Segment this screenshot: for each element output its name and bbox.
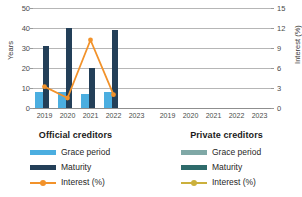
legend-label-interest: Interest (%) xyxy=(212,178,256,187)
maturity-swatch-icon xyxy=(181,165,207,170)
x-tick-2019: 2019 xyxy=(156,110,179,122)
tickmark-right xyxy=(271,68,274,69)
x-tick-2021: 2021 xyxy=(79,110,102,122)
interest-line-private xyxy=(156,8,271,108)
panel-official-creditors xyxy=(33,8,148,108)
y-tick-right-9: 9 xyxy=(277,45,293,53)
legend-label-maturity: Maturity xyxy=(212,163,242,172)
tickmark-right xyxy=(271,8,274,9)
legend-title-private: Private creditors xyxy=(151,130,302,140)
legend-item-maturity[interactable]: Maturity xyxy=(151,160,302,175)
legend-item-grace-period[interactable]: Grace period xyxy=(0,145,151,160)
panel-private-creditors xyxy=(156,8,271,108)
chart-root: Years Interest (%) 50 40 30 20 10 0 15 1… xyxy=(0,0,302,197)
tickmark-right xyxy=(271,48,274,49)
interest-point-2021[interactable] xyxy=(88,38,93,43)
legend-label-grace-period: Grace period xyxy=(212,148,261,157)
x-tick-2021: 2021 xyxy=(202,110,225,122)
y-tick-left-0: 0 xyxy=(14,105,30,113)
legend-item-grace-period[interactable]: Grace period xyxy=(151,145,302,160)
tickmark-right xyxy=(271,88,274,89)
interest-line-swatch-icon xyxy=(181,179,207,186)
x-axis-official: 2019 2020 2021 2022 2023 xyxy=(33,110,148,122)
y-tick-left-40: 40 xyxy=(14,25,30,33)
x-tick-2022: 2022 xyxy=(225,110,248,122)
x-tick-2020: 2020 xyxy=(56,110,79,122)
grace-period-swatch-icon xyxy=(30,150,56,155)
legend-item-maturity[interactable]: Maturity xyxy=(0,160,151,175)
legend-label-interest: Interest (%) xyxy=(61,178,105,187)
legend-item-interest[interactable]: Interest (%) xyxy=(0,175,151,190)
x-tick-2022: 2022 xyxy=(102,110,125,122)
legend-label-grace-period: Grace period xyxy=(61,148,110,157)
legend-private-creditors: Private creditors Grace period Maturity … xyxy=(151,130,302,190)
gridline-baseline xyxy=(33,108,271,109)
x-tick-2019: 2019 xyxy=(33,110,56,122)
y-tick-right-3: 3 xyxy=(277,85,293,93)
y-tick-right-15: 15 xyxy=(277,5,293,13)
x-axis-private: 2019 2020 2021 2022 2023 xyxy=(156,110,271,122)
grace-period-swatch-icon xyxy=(181,150,207,155)
interest-point-2020[interactable] xyxy=(65,96,70,101)
interest-polyline xyxy=(45,40,114,98)
legend-title-official: Official creditors xyxy=(0,130,151,140)
y-tick-left-50: 50 xyxy=(14,5,30,13)
interest-line-official xyxy=(33,8,148,108)
y-tick-left-20: 20 xyxy=(14,65,30,73)
y-tick-left-10: 10 xyxy=(14,85,30,93)
x-tick-2023: 2023 xyxy=(248,110,271,122)
legend-label-maturity: Maturity xyxy=(61,163,91,172)
legend-item-interest[interactable]: Interest (%) xyxy=(151,175,302,190)
y-tick-left-30: 30 xyxy=(14,45,30,53)
plot-area: Years Interest (%) 50 40 30 20 10 0 15 1… xyxy=(0,0,302,127)
interest-point-2022[interactable] xyxy=(111,92,116,97)
tickmark-right xyxy=(271,108,274,109)
legend-official-creditors: Official creditors Grace period Maturity… xyxy=(0,130,151,190)
x-tick-2020: 2020 xyxy=(179,110,202,122)
x-tick-2023: 2023 xyxy=(125,110,148,122)
interest-point-2019[interactable] xyxy=(42,84,47,89)
y-tick-right-6: 6 xyxy=(277,65,293,73)
tickmark-right xyxy=(271,28,274,29)
maturity-swatch-icon xyxy=(30,165,56,170)
y-tick-right-0: 0 xyxy=(277,105,293,113)
interest-line-swatch-icon xyxy=(30,179,56,186)
y-tick-right-12: 12 xyxy=(277,25,293,33)
y-axis-right-title: Interest (%) xyxy=(293,16,302,74)
